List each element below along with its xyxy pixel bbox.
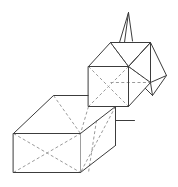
geometry-figure bbox=[0, 0, 178, 187]
geometry-canvas bbox=[0, 0, 178, 187]
